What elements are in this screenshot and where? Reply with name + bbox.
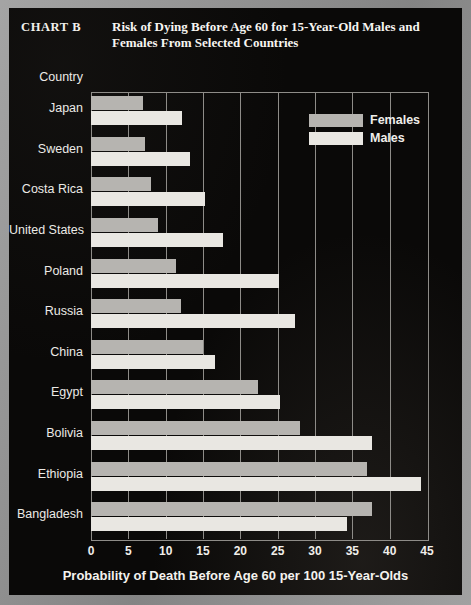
category-label-ethiopia: Ethiopia — [9, 467, 83, 481]
chart-outer-frame: CHART B Risk of Dying Before Age 60 for … — [0, 0, 471, 605]
category-label-sweden: Sweden — [9, 142, 83, 156]
x-tick-30: 30 — [300, 544, 330, 558]
category-label-egypt: Egypt — [9, 385, 83, 399]
bar-male-poland — [91, 274, 279, 288]
x-tick-0: 0 — [76, 544, 106, 558]
chart-number-label: CHART B — [21, 20, 81, 35]
bar-female-bolivia — [91, 421, 300, 435]
bar-male-china — [91, 355, 215, 369]
category-label-china: China — [9, 345, 83, 359]
x-axis-label: Probability of Death Before Age 60 per 1… — [9, 568, 462, 583]
bar-female-costa-rica — [91, 177, 151, 191]
bar-female-china — [91, 340, 203, 354]
legend-label-males: Males — [370, 131, 405, 145]
x-tick-40: 40 — [375, 544, 405, 558]
category-label-russia: Russia — [9, 304, 83, 318]
x-tick-10: 10 — [151, 544, 181, 558]
bar-female-bangladesh — [91, 502, 372, 516]
category-label-united-states: United States — [9, 223, 83, 237]
x-tick-35: 35 — [337, 544, 367, 558]
legend: FemalesMales — [309, 113, 429, 149]
bar-female-japan — [91, 96, 143, 110]
bar-male-japan — [91, 111, 182, 125]
bar-female-ethiopia — [91, 462, 367, 476]
bar-female-egypt — [91, 380, 258, 394]
legend-swatch-females — [309, 114, 363, 127]
bar-male-united-states — [91, 233, 223, 247]
chart-panel: CHART B Risk of Dying Before Age 60 for … — [9, 8, 462, 595]
bar-male-egypt — [91, 395, 280, 409]
bar-male-russia — [91, 314, 295, 328]
category-label-bolivia: Bolivia — [9, 426, 83, 440]
bar-male-ethiopia — [91, 477, 421, 491]
category-label-poland: Poland — [9, 264, 83, 278]
x-tick-45: 45 — [412, 544, 442, 558]
x-tick-15: 15 — [188, 544, 218, 558]
x-tick-25: 25 — [263, 544, 293, 558]
x-tick-5: 5 — [113, 544, 143, 558]
bar-male-costa-rica — [91, 192, 205, 206]
y-axis-label: Country — [9, 70, 83, 84]
legend-label-females: Females — [370, 113, 420, 127]
chart-title: Risk of Dying Before Age 60 for 15-Year-… — [112, 19, 447, 51]
legend-item-males: Males — [309, 131, 429, 146]
chart-header: CHART B Risk of Dying Before Age 60 for … — [9, 16, 462, 62]
x-tick-20: 20 — [225, 544, 255, 558]
bar-female-united-states — [91, 218, 158, 232]
category-label-japan: Japan — [9, 101, 83, 115]
legend-item-females: Females — [309, 113, 429, 128]
gridline-40 — [390, 92, 391, 539]
bar-male-sweden — [91, 152, 190, 166]
legend-swatch-males — [309, 132, 363, 145]
category-label-costa-rica: Costa Rica — [9, 182, 83, 196]
bar-female-russia — [91, 299, 181, 313]
category-label-bangladesh: Bangladesh — [9, 507, 83, 521]
bar-female-sweden — [91, 137, 145, 151]
bar-male-bangladesh — [91, 517, 347, 531]
bar-male-bolivia — [91, 436, 372, 450]
bar-female-poland — [91, 259, 176, 273]
